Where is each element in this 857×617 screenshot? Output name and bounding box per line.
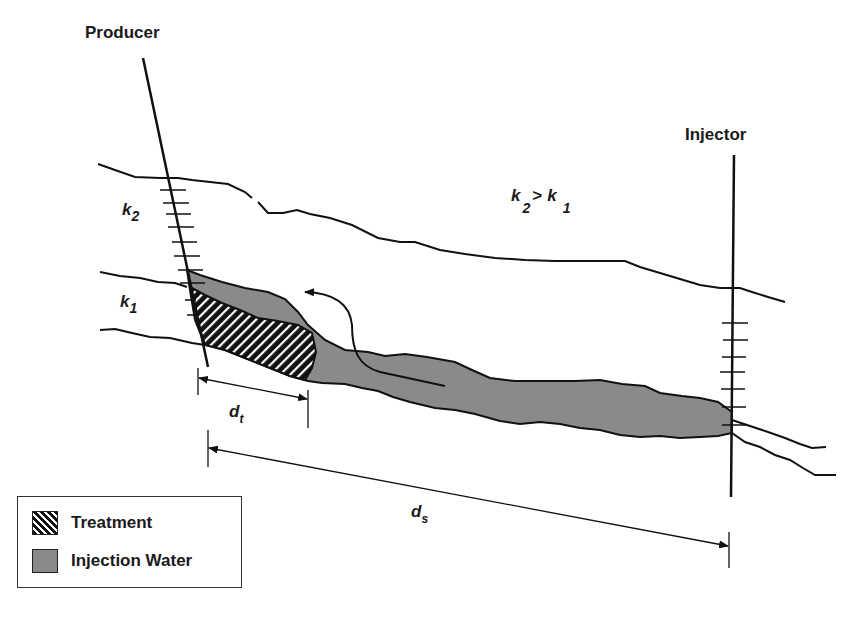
relation-operator: >: [532, 186, 542, 205]
k1-bottom-boundary: [100, 329, 205, 345]
k2-layer-label: k2: [122, 200, 139, 220]
k1-subscript: 1: [129, 300, 137, 316]
legend-label-treatment: Treatment: [71, 513, 152, 533]
k1-layer-label: k1: [120, 292, 137, 312]
legend-label-injection-water: Injection Water: [71, 551, 192, 571]
injector-well: [731, 155, 734, 497]
k2-top-boundary-2: [258, 202, 785, 302]
k2-subscript: 2: [131, 208, 139, 224]
ds-subscript: s: [421, 512, 428, 526]
relation-left-sub: 2: [522, 200, 530, 216]
dt-label: dt: [229, 402, 243, 422]
ds-dimension: [208, 430, 729, 568]
k1-bottom-boundary-right: [732, 433, 836, 475]
legend: Treatment Injection Water: [17, 496, 242, 588]
injection-water-swatch-icon: [32, 549, 58, 573]
legend-item-injection-water: Injection Water: [32, 549, 192, 573]
ds-label: ds: [411, 502, 428, 522]
treatment-swatch-icon: [32, 511, 58, 535]
producer-well: [143, 58, 208, 367]
legend-item-treatment: Treatment: [32, 511, 152, 535]
k2-top-boundary: [98, 164, 252, 198]
producer-label: Producer: [85, 23, 160, 43]
dt-subscript: t: [239, 412, 243, 426]
relation-right-sub: 1: [563, 200, 571, 216]
injector-label: Injector: [685, 125, 746, 145]
dt-symbol: d: [229, 402, 239, 421]
k1-top-boundary-right: [732, 420, 826, 448]
k1-top-boundary: [100, 272, 187, 287]
ds-symbol: d: [411, 502, 421, 521]
relation-right-symbol: k: [547, 186, 556, 205]
permeability-relation: k2>k1: [511, 186, 564, 206]
relation-left-symbol: k: [511, 186, 520, 205]
